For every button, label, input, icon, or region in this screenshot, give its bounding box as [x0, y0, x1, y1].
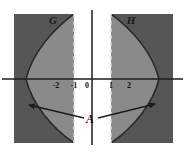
tick-label-minus-1: -1: [71, 81, 78, 90]
tick-label-zero: 0: [85, 81, 89, 90]
tick-label-minus-2: -2: [53, 81, 60, 90]
hyperbola-figure: G H -2 -1 0 1 2 A: [0, 0, 185, 153]
set-label-a: A: [85, 112, 94, 126]
region-label-g: G: [49, 14, 57, 26]
tick-label-one: 1: [109, 81, 113, 90]
tick-label-two: 2: [127, 81, 131, 90]
figure-canvas: G H -2 -1 0 1 2 A: [0, 0, 185, 153]
region-label-h: H: [126, 14, 136, 26]
